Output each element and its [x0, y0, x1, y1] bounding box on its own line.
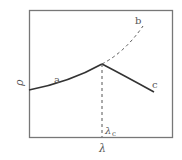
y-axis-label: ρ [13, 79, 26, 87]
curve-c [102, 64, 154, 92]
critical-lambda-label: λ [104, 125, 111, 136]
curve-a [29, 64, 102, 90]
curve-b-label: b [135, 15, 141, 26]
curve-a-label: a [54, 74, 60, 85]
x-axis-label: λ [98, 142, 106, 155]
plot-frame [30, 11, 173, 138]
curve-c-label: c [152, 79, 158, 90]
curve-b [102, 26, 143, 64]
critical-lambda-subscript: c [112, 130, 116, 138]
diagram: a b c ρ λ λ c [0, 0, 182, 160]
